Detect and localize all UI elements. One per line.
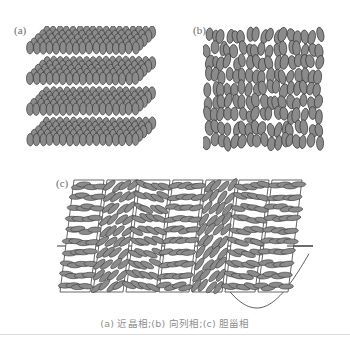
panel-c-cholesteric-diagram (55, 172, 315, 314)
molecule-ellipse (27, 42, 34, 54)
molecule-ellipse (100, 42, 107, 54)
molecule-ellipse (125, 102, 132, 114)
molecule-ellipse (106, 103, 113, 115)
molecule-ellipse (257, 42, 265, 56)
molecule-ellipse (211, 41, 219, 54)
molecule-ellipse (226, 67, 233, 80)
molecule-ellipse (79, 73, 86, 85)
molecule-ellipse (86, 72, 93, 84)
molecule-ellipse (53, 133, 60, 145)
molecule-ellipse (223, 92, 234, 108)
molecule-ellipse (112, 133, 119, 145)
molecule-ellipse (33, 72, 40, 84)
molecule-ellipse (72, 103, 79, 115)
molecule-ellipse (317, 136, 324, 150)
molecule-ellipse (132, 133, 139, 145)
molecule-ellipse (73, 42, 80, 54)
molecule-ellipse (66, 73, 73, 85)
molecule-ellipse (119, 133, 126, 145)
molecule-ellipse (106, 42, 113, 54)
molecule-ellipse (244, 82, 253, 97)
molecule-ellipse (119, 73, 126, 85)
molecule-ellipse (93, 41, 100, 53)
molecule-ellipse (88, 215, 102, 220)
molecule-ellipse (314, 55, 325, 70)
molecule-ellipse (132, 72, 139, 84)
molecule-ellipse (80, 102, 87, 114)
smectic-layer (26, 56, 155, 85)
molecule-ellipse (86, 42, 93, 54)
molecule-ellipse (300, 94, 307, 107)
molecule-ellipse (26, 72, 33, 84)
molecule-ellipse (231, 107, 239, 121)
molecule-ellipse (203, 136, 211, 150)
smectic-row (27, 102, 139, 115)
molecule-ellipse (93, 133, 100, 145)
molecule-ellipse (99, 102, 106, 114)
molecule-ellipse (125, 41, 132, 53)
molecule-ellipse (238, 80, 245, 95)
molecule-ellipse (40, 42, 47, 54)
molecule-ellipse (284, 239, 298, 244)
molecule-ellipse (267, 137, 276, 151)
molecule-ellipse (132, 103, 139, 115)
molecule-ellipse (66, 134, 73, 146)
molecule-ellipse (133, 42, 140, 54)
molecule-ellipse (53, 103, 60, 115)
panel-a-smectic-diagram (24, 26, 174, 158)
liquid-crystal-phase-figure: (a) (b) (c) (a) 近晶相;(b) 向列相;(c) 胆甾相 (0, 0, 350, 347)
molecule-ellipse (46, 41, 53, 53)
molecule-ellipse (86, 103, 93, 115)
molecule-ellipse (204, 83, 211, 97)
molecule-ellipse (106, 134, 113, 146)
nematic-field (203, 26, 325, 151)
molecule-ellipse (93, 72, 100, 84)
molecule-ellipse (46, 72, 53, 84)
molecule-ellipse (40, 103, 47, 115)
molecule-ellipse (206, 28, 214, 41)
molecule-ellipse (66, 103, 73, 115)
molecule-ellipse (253, 135, 261, 147)
molecule-ellipse (112, 73, 119, 85)
molecule-ellipse (59, 133, 66, 145)
molecule-ellipse (73, 72, 80, 84)
molecule-ellipse (33, 103, 40, 115)
molecule-ellipse (46, 133, 53, 145)
molecule-ellipse (99, 72, 106, 84)
molecule-ellipse (27, 103, 34, 115)
smectic-layer (27, 26, 156, 54)
smectic-layer (27, 86, 156, 115)
molecule-ellipse (46, 103, 53, 115)
molecule-ellipse (83, 249, 98, 255)
smectic-row (26, 72, 138, 85)
molecule-ellipse (279, 284, 294, 290)
molecule-ellipse (60, 41, 67, 53)
smectic-row (27, 41, 140, 54)
smectic-row (27, 133, 139, 146)
molecule-ellipse (59, 72, 66, 84)
molecule-ellipse (288, 207, 303, 213)
molecule-ellipse (92, 103, 99, 115)
molecule-ellipse (60, 103, 67, 115)
molecule-ellipse (66, 42, 73, 54)
panel-b-nematic-diagram (203, 26, 325, 158)
molecule-ellipse (224, 123, 231, 136)
molecule-ellipse (86, 133, 93, 145)
molecule-ellipse (299, 135, 307, 149)
smectic-layer (27, 117, 156, 146)
molecule-ellipse (265, 107, 273, 121)
molecule-ellipse (34, 42, 41, 54)
molecule-ellipse (278, 272, 292, 277)
molecule-ellipse (291, 182, 305, 187)
molecule-ellipse (119, 42, 126, 54)
figure-caption: (a) 近晶相;(b) 向列相;(c) 胆甾相 (0, 316, 350, 330)
molecule-ellipse (113, 103, 120, 115)
molecule-ellipse (53, 72, 60, 84)
molecule-ellipse (73, 133, 80, 145)
molecule-ellipse (79, 42, 86, 54)
molecule-ellipse (238, 95, 246, 110)
molecule-ellipse (126, 133, 133, 145)
molecule-ellipse (307, 30, 317, 46)
molecule-ellipse (53, 42, 60, 54)
molecule-ellipse (307, 133, 316, 147)
